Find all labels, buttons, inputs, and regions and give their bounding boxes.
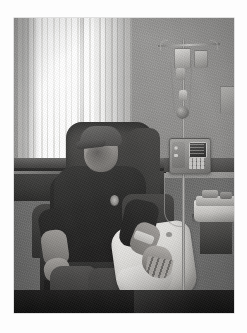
iv-bag-small — [176, 68, 185, 80]
photograph — [14, 18, 234, 313]
drip-chamber — [179, 90, 187, 101]
infusion-pump-keypad — [189, 158, 205, 169]
page-canvas — [0, 0, 247, 333]
side-table-base — [200, 220, 232, 254]
shirt-emblem — [110, 195, 119, 206]
iv-bag-primary — [174, 48, 191, 69]
side-table-supplies-secondary — [220, 192, 232, 199]
iv-pole — [182, 40, 185, 310]
iv-bag-secondary — [194, 50, 208, 68]
infusion-pump-led-secondary-icon — [174, 154, 178, 157]
infusion-pump-led-icon — [174, 146, 178, 150]
wall-poster — [220, 86, 234, 114]
side-table-supplies — [202, 190, 218, 198]
iv-line-to-patient — [164, 178, 185, 227]
floor-reflection — [134, 290, 234, 313]
roller-clamp — [176, 106, 189, 119]
infusion-pump-display-text — [190, 144, 204, 154]
blinds-shadow-left — [22, 18, 40, 160]
iv-hook-right-icon — [210, 40, 218, 50]
iv-hook-left-icon — [160, 40, 168, 50]
lap-pillow-mark — [166, 232, 172, 237]
